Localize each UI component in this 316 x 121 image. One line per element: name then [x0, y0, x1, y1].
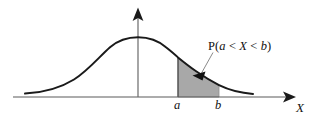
annotation-close-paren: ) [267, 39, 271, 53]
x-tick-label-b: b [215, 99, 221, 112]
normal-distribution-figure: P(a < X < b) a b X [0, 0, 316, 121]
annotation-x-var: X [239, 39, 247, 53]
probability-annotation-label: P(a < X < b) [208, 40, 271, 53]
figure-canvas [0, 0, 316, 121]
annotation-lt-1: < [226, 39, 240, 53]
x-axis-label: X [296, 101, 304, 114]
annotation-leader-line [201, 53, 213, 75]
annotation-p-text: P( [208, 39, 219, 53]
x-tick-label-a: a [174, 99, 180, 112]
annotation-lt-2: < [247, 39, 261, 53]
